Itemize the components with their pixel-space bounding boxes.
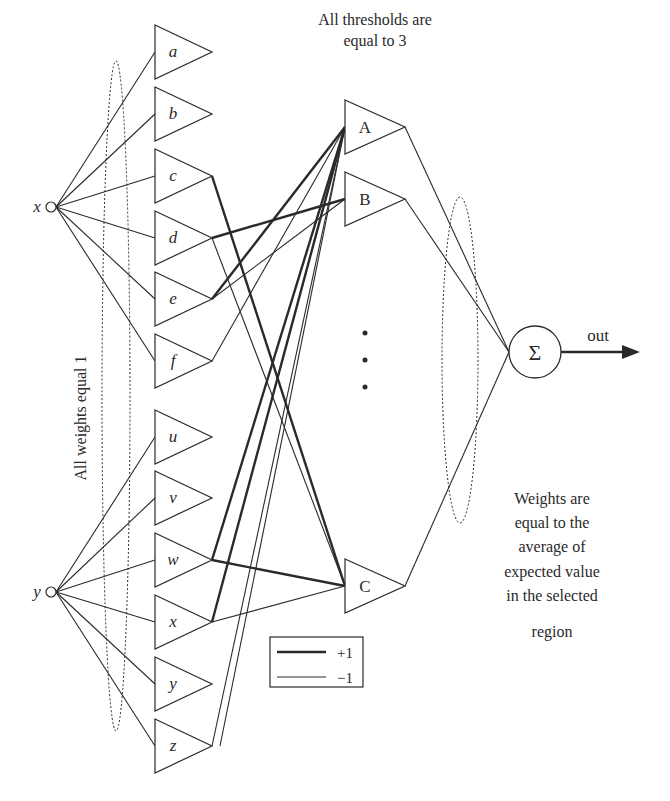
input-edge xyxy=(56,498,155,592)
legend-plus-label: +1 xyxy=(337,645,353,661)
layer1-node-label: y xyxy=(167,674,177,693)
layer1-node-u: u xyxy=(155,410,212,464)
hidden-edge-d-C xyxy=(212,238,345,586)
input-node-label: x xyxy=(32,197,41,216)
layer1-node-label: v xyxy=(169,488,177,507)
hidden-edge-w-C xyxy=(212,560,345,586)
hidden-edge-x-C xyxy=(212,586,345,622)
layer1-node-label: c xyxy=(169,166,177,185)
layer1-node-x: x xyxy=(155,595,212,649)
input-edge xyxy=(56,437,155,592)
weights-avg-line: in the selected xyxy=(506,587,598,604)
input-edge xyxy=(56,207,155,299)
input-edge xyxy=(56,176,155,207)
input-edges xyxy=(56,52,155,746)
layer1-node-label: d xyxy=(169,228,178,247)
input-node-label: y xyxy=(31,582,41,601)
output-edge xyxy=(405,127,509,352)
weights-avg-line: expected value xyxy=(504,563,600,581)
layer1-node-b: b xyxy=(155,87,212,141)
layer1-node-v: v xyxy=(155,471,212,525)
layer1-node-d: d xyxy=(155,211,212,265)
layer1-node-z: z xyxy=(155,719,212,773)
layer1-node-f: f xyxy=(155,334,212,388)
weights-avg-line: average of xyxy=(518,538,586,556)
input-edge xyxy=(56,114,155,207)
layer1-node-label: z xyxy=(169,736,177,755)
layer2-node-label: A xyxy=(359,118,372,137)
layer1-node-w: w xyxy=(155,533,212,587)
weights-equal-note: All weights equal 1 xyxy=(72,356,90,481)
input-node-y: y xyxy=(31,582,56,601)
input-edge xyxy=(56,592,155,684)
layer1-node-label: e xyxy=(169,289,177,308)
input-nodes: xy xyxy=(31,197,56,601)
sum-node: Σ xyxy=(509,326,561,378)
hidden-edge-w-A xyxy=(212,127,345,560)
layer1-node-e: e xyxy=(155,272,212,326)
input-edge xyxy=(56,207,155,238)
layer2-node-A: A xyxy=(345,100,405,154)
ellipsis-dots xyxy=(363,331,368,390)
layer2-node-label: C xyxy=(359,577,370,596)
layer1-node-label: u xyxy=(169,427,178,446)
output-label: out xyxy=(587,326,609,345)
input-edge xyxy=(56,560,155,592)
input-edge xyxy=(56,592,155,622)
input-edge xyxy=(56,207,155,361)
sigma-label: Σ xyxy=(529,340,542,365)
output-edge xyxy=(405,352,509,586)
layer1-node-c: c xyxy=(155,149,212,203)
hidden-edge-e-A xyxy=(212,127,345,299)
layer2-nodes: ABC xyxy=(345,100,405,613)
layer1-node-label: a xyxy=(169,42,178,61)
weights-average-note: Weights are equal to the average of expe… xyxy=(504,490,600,641)
weights-avg-line: equal to the xyxy=(515,514,590,532)
layer1-node-a: a xyxy=(155,25,212,79)
output-edges xyxy=(405,127,509,586)
layer1-node-label: w xyxy=(167,550,179,569)
layer2-node-B: B xyxy=(345,172,405,226)
neural-network-diagram: abcdefuvwxyz ABC xy Σ out All thresholds… xyxy=(0,0,670,801)
thresholds-note-line2: equal to 3 xyxy=(343,32,406,50)
layer1-node-label: b xyxy=(169,104,178,123)
hidden-edge-c-C xyxy=(212,176,345,586)
layer2-node-label: B xyxy=(359,190,370,209)
legend: +1 −1 xyxy=(270,637,363,687)
layer1-node-y: y xyxy=(155,657,212,711)
input-weights-region xyxy=(102,61,130,731)
input-node-x: x xyxy=(32,197,56,216)
layer1-nodes: abcdefuvwxyz xyxy=(155,25,212,773)
thresholds-note-line1: All thresholds are xyxy=(318,11,432,28)
weights-avg-line: region xyxy=(532,623,573,641)
layer2-node-C: C xyxy=(345,559,405,613)
output-arrow: out xyxy=(561,326,640,359)
hidden-edge-f-A xyxy=(212,127,345,361)
layer1-node-label: x xyxy=(168,612,177,631)
legend-minus-label: −1 xyxy=(337,670,353,686)
hidden-edge-x-A xyxy=(212,127,345,622)
output-edge xyxy=(405,199,509,352)
weights-avg-line: Weights are xyxy=(514,490,590,508)
